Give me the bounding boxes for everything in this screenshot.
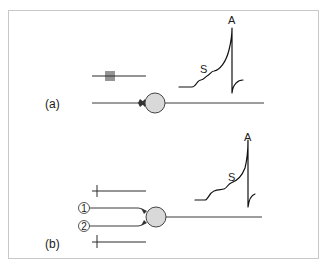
stimulus-burst-a [92, 71, 146, 81]
synapse-terminal-2 [141, 220, 147, 226]
neuron-soma-a [145, 93, 165, 113]
input-1: 1 [79, 203, 148, 215]
summation-label-a: S [200, 63, 207, 75]
input-number-1: 1 [81, 203, 87, 214]
summation-label-b: S [228, 171, 235, 183]
panel-label-a: (a) [45, 97, 60, 111]
action-potential-label-b: A [244, 131, 252, 143]
synapse-terminal-1 [141, 208, 147, 214]
membrane-trace-b [195, 140, 255, 207]
panel-a: S A (a) [45, 14, 264, 113]
neuron-soma-b [146, 207, 166, 227]
stimulus-spike-1 [92, 185, 146, 197]
membrane-trace-a [179, 28, 243, 93]
input-number-2: 2 [81, 221, 87, 232]
panel-label-b: (b) [45, 237, 60, 251]
summation-diagram: S A (a) 1 2 [0, 0, 326, 267]
panel-b: 1 2 S A (b) [45, 131, 262, 251]
stimulus-spike-2 [92, 235, 146, 248]
input-2: 2 [79, 220, 148, 232]
action-potential-label-a: A [228, 14, 236, 26]
